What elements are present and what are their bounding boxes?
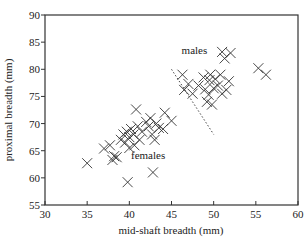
x-tick-label: 45 — [166, 208, 178, 220]
x-marker — [148, 167, 158, 177]
y-tick-label: 90 — [29, 9, 41, 21]
x-marker — [82, 158, 92, 168]
x-marker — [99, 144, 109, 154]
x-marker — [123, 177, 133, 187]
y-tick-label: 65 — [29, 145, 41, 157]
data-points — [82, 47, 271, 187]
x-marker — [167, 116, 177, 126]
x-tick-label: 35 — [82, 208, 94, 220]
y-axis-title: proximal breadth (mm) — [2, 58, 15, 161]
x-tick-label: 30 — [40, 208, 52, 220]
x-marker — [177, 70, 187, 80]
series-females — [82, 104, 176, 187]
y-tick-label: 55 — [29, 199, 41, 211]
y-tick-label: 70 — [29, 118, 41, 130]
x-marker — [202, 97, 212, 107]
y-tick-label: 85 — [29, 36, 41, 48]
plot-frame — [45, 15, 298, 205]
x-tick-label: 50 — [208, 208, 220, 220]
x-marker — [224, 76, 234, 86]
x-marker — [131, 104, 141, 114]
scatter-chart: 30354045505560 5560657075808590 malesfem… — [0, 0, 308, 241]
x-marker — [261, 70, 271, 80]
plot-border — [45, 15, 298, 205]
y-tick-label: 60 — [29, 172, 41, 184]
x-marker — [183, 79, 193, 89]
x-marker — [207, 100, 217, 110]
annotation-males: males — [182, 44, 208, 56]
series-males — [177, 47, 270, 110]
x-marker — [204, 90, 214, 100]
x-marker — [188, 89, 198, 99]
x-tick-label: 40 — [124, 208, 136, 220]
x-marker — [226, 48, 236, 58]
y-axis-ticks: 5560657075808590 — [29, 9, 45, 211]
x-axis-ticks: 30354045505560 — [40, 201, 305, 220]
y-tick-label: 75 — [29, 90, 41, 102]
x-marker — [105, 140, 115, 150]
x-axis-title: mid-shaft breadth (mm) — [118, 224, 223, 237]
annotation-females: females — [131, 149, 165, 161]
y-tick-label: 80 — [29, 63, 41, 75]
x-marker — [215, 70, 225, 80]
x-tick-label: 55 — [250, 208, 262, 220]
x-marker — [134, 135, 144, 145]
x-marker — [137, 127, 147, 137]
x-tick-label: 60 — [293, 208, 305, 220]
x-marker — [253, 63, 263, 73]
x-marker — [160, 108, 170, 118]
